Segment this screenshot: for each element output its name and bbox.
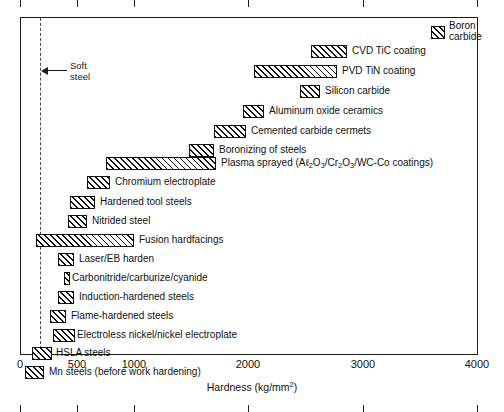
bar-aluminum-oxide-ceramics[interactable] (243, 105, 264, 118)
bar-label-boron-carbide: Boron carbide (449, 21, 482, 42)
bar-label-aluminum-oxide-ceramics: Aluminum oxide ceramics (269, 104, 383, 118)
xtick-label-2000: 2000 (230, 358, 266, 370)
plasma-o-2: O (342, 157, 350, 168)
x-axis-title: Hardness (kg/mm2) (0, 381, 504, 395)
soft-steel-label-line1: Soft (70, 61, 90, 72)
soft-steel-label-line2: steel (70, 72, 90, 83)
soft-steel-arrow-icon (41, 66, 71, 75)
bar-hsla-steels[interactable] (32, 347, 52, 360)
bar-label-electroless-nickel: Electroless nickel/nickel electroplate (77, 328, 237, 342)
bar-boronizing-of-steels[interactable] (189, 144, 214, 157)
plasma-o-1: O (313, 157, 321, 168)
bar-silicon-carbide[interactable] (300, 85, 320, 98)
tick-bottom-4000 (477, 405, 478, 412)
bar-label-nitrided-steel: Nitrided steel (92, 214, 150, 228)
bar-label-pvd-tin-coating: PVD TiN coating (342, 64, 415, 78)
bar-induction-hardened-steels[interactable] (58, 291, 74, 304)
bar-fusion-hardfacings[interactable] (36, 234, 134, 247)
bar-label-cvd-tic-coating: CVD TiC coating (352, 44, 426, 58)
plasma-sub-4: 3 (350, 161, 354, 170)
tick-bottom-1000 (134, 405, 135, 412)
xtick-label-4000: 4000 (459, 358, 495, 370)
bar-pvd-tin-coating[interactable] (254, 65, 337, 78)
xtick-label-3000: 3000 (345, 358, 381, 370)
tick-bottom-3000 (363, 405, 364, 412)
tick-top-1000 (134, 0, 135, 7)
tick-top-3000 (363, 0, 364, 7)
plasma-slash-1: /Cr (325, 157, 338, 168)
x-axis-title-superscript: 2 (290, 380, 294, 389)
bar-label-cemented-carbide-cermets: Cemented carbide cermets (251, 124, 371, 138)
boron-carbide-line1: Boron (449, 21, 482, 32)
tick-bottom-2000 (248, 405, 249, 412)
xtick-label-0: 0 (8, 358, 32, 370)
x-axis-title-suffix: ) (294, 381, 298, 393)
soft-steel-annotation: Soft steel (70, 61, 90, 82)
bar-label-induction-hardened-steels: Induction-hardened steels (79, 290, 194, 304)
bar-label-fusion-hardfacings: Fusion hardfacings (139, 233, 224, 247)
bar-laser-eb-harden[interactable] (58, 253, 74, 266)
tick-top-2000 (248, 0, 249, 7)
bar-label-carbonitride-carburize-cyanide: Carbonitride/carburize/cyanide (72, 271, 208, 285)
tick-top-500 (77, 0, 78, 7)
bar-hardened-tool-steels[interactable] (70, 196, 95, 209)
plasma-sub-2: 3 (321, 161, 325, 170)
bar-boron-carbide[interactable] (431, 26, 445, 39)
plasma-sub-3: 2 (338, 161, 342, 170)
bar-cemented-carbide-cermets[interactable] (214, 125, 246, 138)
bar-carbonitride-carburize-cyanide[interactable] (64, 272, 70, 285)
bar-label-flame-hardened-steels: Flame-hardened steels (71, 309, 173, 323)
boron-carbide-line2: carbide (449, 32, 482, 43)
tick-bottom-500 (77, 405, 78, 412)
bar-nitrided-steel[interactable] (68, 215, 87, 228)
plasma-suffix: /WC-Co coatings) (354, 157, 433, 168)
bar-label-hardened-tool-steels: Hardened tool steels (100, 195, 192, 209)
bar-chromium-electroplate[interactable] (87, 176, 110, 189)
bar-label-boronizing-of-steels: Boronizing of steels (219, 143, 306, 157)
tick-top-4000 (477, 0, 478, 7)
bar-flame-hardened-steels[interactable] (50, 310, 66, 323)
plasma-prefix: Plasma sprayed (A (221, 157, 305, 168)
xtick-label-1000: 1000 (116, 358, 152, 370)
bar-label-silicon-carbide: Silicon carbide (325, 84, 390, 98)
bar-plasma-sprayed[interactable] (106, 157, 216, 170)
bar-cvd-tic-coating[interactable] (311, 45, 347, 58)
x-axis-title-prefix: Hardness (kg/mm (207, 381, 290, 393)
bar-label-chromium-electroplate: Chromium electroplate (115, 175, 216, 189)
bar-electroless-nickel[interactable] (53, 329, 75, 342)
bar-label-plasma-sprayed: Plasma sprayed (Aℓ2O3/Cr2O3/WC-Co coatin… (221, 156, 433, 171)
plasma-sub-1: 2 (309, 161, 313, 170)
hardness-comparison-figure: Soft steel Boron carbide CVD TiC coating… (0, 0, 504, 412)
xtick-label-500: 500 (62, 358, 92, 370)
tick-bottom-0 (20, 405, 21, 412)
tick-top-0 (20, 0, 21, 7)
bar-label-laser-eb-harden: Laser/EB harden (79, 252, 154, 266)
